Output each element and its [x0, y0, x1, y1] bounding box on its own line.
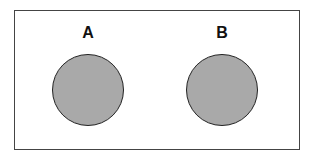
set-a-circle: [52, 54, 124, 126]
set-b-label: B: [216, 24, 228, 42]
set-b-circle: [186, 54, 258, 126]
set-a-label: A: [82, 24, 94, 42]
